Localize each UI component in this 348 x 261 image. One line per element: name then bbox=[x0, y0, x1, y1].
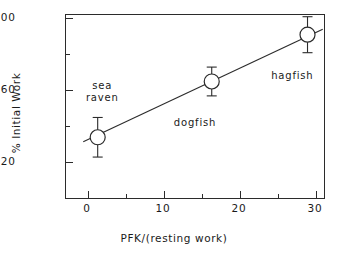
x-tick-major bbox=[164, 191, 165, 198]
x-tick-label: 20 bbox=[231, 202, 246, 214]
y-axis-title: % Initial Work bbox=[10, 43, 22, 183]
y-tick-major bbox=[66, 162, 73, 163]
y-tick-minor bbox=[66, 54, 70, 55]
x-tick-minor bbox=[126, 194, 127, 198]
scatter-chart-figure: 20601000102030 PFK/(resting work) % Init… bbox=[0, 0, 348, 261]
x-tick-minor bbox=[278, 194, 279, 198]
x-tick-major bbox=[316, 191, 317, 198]
y-tick-major bbox=[66, 18, 73, 19]
point-label-sea-raven: sea raven bbox=[86, 80, 119, 104]
plot-frame bbox=[65, 14, 325, 199]
x-tick-major bbox=[240, 191, 241, 198]
x-tick-minor bbox=[202, 194, 203, 198]
x-tick-label: 30 bbox=[307, 202, 322, 214]
y-tick-major bbox=[66, 90, 73, 91]
y-tick-minor bbox=[66, 126, 70, 127]
x-tick-major bbox=[88, 191, 89, 198]
point-label-hagfish: hagfish bbox=[271, 70, 313, 82]
x-axis-title: PFK/(resting work) bbox=[0, 232, 348, 244]
point-label-dogfish: dogfish bbox=[174, 117, 216, 129]
x-tick-label: 0 bbox=[83, 202, 91, 214]
y-tick-label: 100 bbox=[0, 11, 16, 23]
x-tick-label: 10 bbox=[155, 202, 170, 214]
